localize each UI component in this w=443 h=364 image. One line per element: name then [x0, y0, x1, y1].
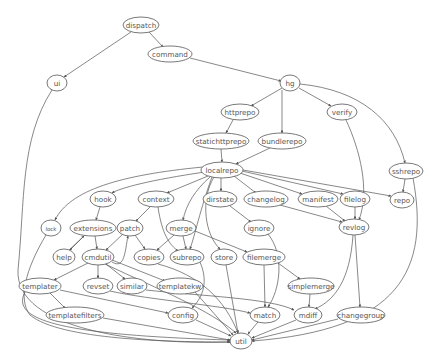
node-filelog: filelog: [340, 191, 370, 207]
node-hook: hook: [90, 191, 116, 207]
edge-extensions-to-cmdutil: [95, 236, 97, 249]
node-label: subrepo: [172, 253, 201, 262]
edge-patch-to-copies: [135, 235, 145, 249]
node-statichttprepo: statichttprepo: [193, 133, 249, 149]
node-label: config: [172, 311, 194, 320]
edge-bundlerepo-to-localrepo: [236, 148, 270, 164]
node-templater: templater: [19, 278, 61, 294]
node-label: simplemerge: [288, 282, 336, 291]
node-templatekw: templatekw: [157, 278, 203, 294]
edge-context-to-patch: [136, 207, 150, 221]
node-store: store: [211, 249, 237, 265]
edge-help-to-extensions: [69, 236, 84, 250]
node-dispatch: dispatch: [123, 17, 159, 33]
node-label: mdiff: [299, 311, 319, 320]
node-label: ignore: [248, 224, 271, 233]
edge-cmdutil-to-patch: [112, 236, 128, 264]
edge-match-to-util: [248, 322, 258, 334]
node-label: templater: [22, 282, 57, 291]
edge-filemerge-to-simplemerge: [278, 263, 300, 279]
node-command: command: [148, 46, 192, 62]
node-label: store: [215, 253, 234, 262]
node-label: httprepo: [225, 108, 256, 117]
edge-patch-to-cmdutil: [106, 234, 123, 250]
node-label: statichttprepo: [196, 137, 247, 146]
node-changegroup: changegroup: [337, 307, 385, 323]
edge-hg-to-httprepo: [251, 88, 282, 106]
edge-store-to-util: [226, 265, 238, 333]
edge-localrepo-to-hook: [112, 172, 205, 193]
node-label: command: [152, 50, 188, 59]
node-templatefilters: templatefilters: [46, 307, 104, 323]
node-label: localrepo: [206, 166, 239, 175]
node-label: filemerge: [247, 253, 282, 262]
edge-hg-to-sshrepo: [300, 84, 405, 163]
edge-cmdutil-to-util: [105, 264, 236, 333]
node-label: verify: [332, 108, 353, 117]
node-help: help: [53, 249, 75, 265]
graph-svg: dispatchcommanduihghttprepoverifystatich…: [0, 0, 443, 364]
node-label: revlog: [343, 223, 365, 232]
edge-filemerge-to-match: [264, 265, 265, 307]
node-label: hg: [285, 79, 294, 88]
node-filemerge: filemerge: [243, 249, 285, 265]
node-dirstate: dirstate: [203, 191, 237, 207]
node-patch: patch: [117, 220, 143, 236]
edge-config-to-util: [196, 320, 231, 336]
edge-changelog-to-revlog: [280, 205, 342, 222]
node-repo: repo: [390, 192, 414, 208]
node-label: revset: [87, 282, 110, 291]
edge-statichttprepo-to-localrepo: [221, 149, 222, 162]
node-label: changelog: [247, 195, 284, 204]
node-label: hook: [94, 195, 112, 204]
node-label: dirstate: [206, 195, 234, 204]
node-merge: merge: [166, 220, 196, 236]
node-copies: copies: [134, 249, 164, 265]
edge-simplemerge-to-mdiff: [309, 294, 310, 307]
node-changelog: changelog: [244, 191, 288, 207]
node-label: lock: [45, 226, 57, 232]
node-verify: verify: [327, 104, 357, 120]
node-lock: lock: [41, 220, 61, 236]
edge-copies-to-util: [158, 264, 238, 333]
edge-command-to-hg: [190, 58, 281, 81]
node-label: ui: [54, 79, 61, 88]
node-mdiff: mdiff: [294, 307, 322, 323]
node-label: context: [142, 195, 169, 204]
node-ignore: ignore: [244, 220, 274, 236]
edge-httprepo-to-statichttprepo: [226, 120, 233, 133]
node-manifest: manifest: [298, 191, 338, 207]
node-context: context: [138, 191, 174, 207]
edges-layer: [18, 32, 417, 342]
node-label: extensions: [74, 224, 113, 233]
node-hg: hg: [280, 75, 300, 91]
edge-templater-to-templatefilters: [50, 293, 65, 308]
edge-dirstate-to-ignore: [230, 206, 251, 222]
node-extensions: extensions: [70, 220, 116, 236]
node-label: sshrepo: [392, 167, 420, 176]
node-sshrepo: sshrepo: [389, 163, 423, 179]
node-label: repo: [394, 196, 410, 205]
node-label: templatefilters: [49, 311, 102, 320]
edge-cmdutil-to-templater: [54, 263, 88, 280]
node-label: patch: [120, 224, 140, 233]
node-similar: similar: [117, 278, 147, 294]
node-label: util: [235, 337, 246, 346]
node-label: manifest: [302, 195, 334, 204]
node-localrepo: localrepo: [201, 162, 243, 178]
node-revlog: revlog: [339, 219, 369, 235]
node-label: similar: [120, 282, 144, 291]
node-httprepo: httprepo: [221, 104, 259, 120]
edge-cmdutil-to-similar: [106, 264, 125, 279]
edge-ignore-to-match: [268, 234, 279, 307]
edge-localrepo-to-lock: [55, 167, 203, 220]
edge-dispatch-to-command: [149, 32, 163, 47]
edge-hook-to-extensions: [96, 207, 100, 220]
edge-merge-to-subrepo: [183, 236, 186, 249]
node-label: help: [56, 253, 72, 262]
node-label: copies: [137, 253, 160, 262]
node-label: cmdutil: [85, 253, 112, 262]
node-config: config: [168, 307, 198, 323]
edge-revlog-to-mdiff: [315, 235, 353, 309]
node-subrepo: subrepo: [170, 249, 204, 265]
